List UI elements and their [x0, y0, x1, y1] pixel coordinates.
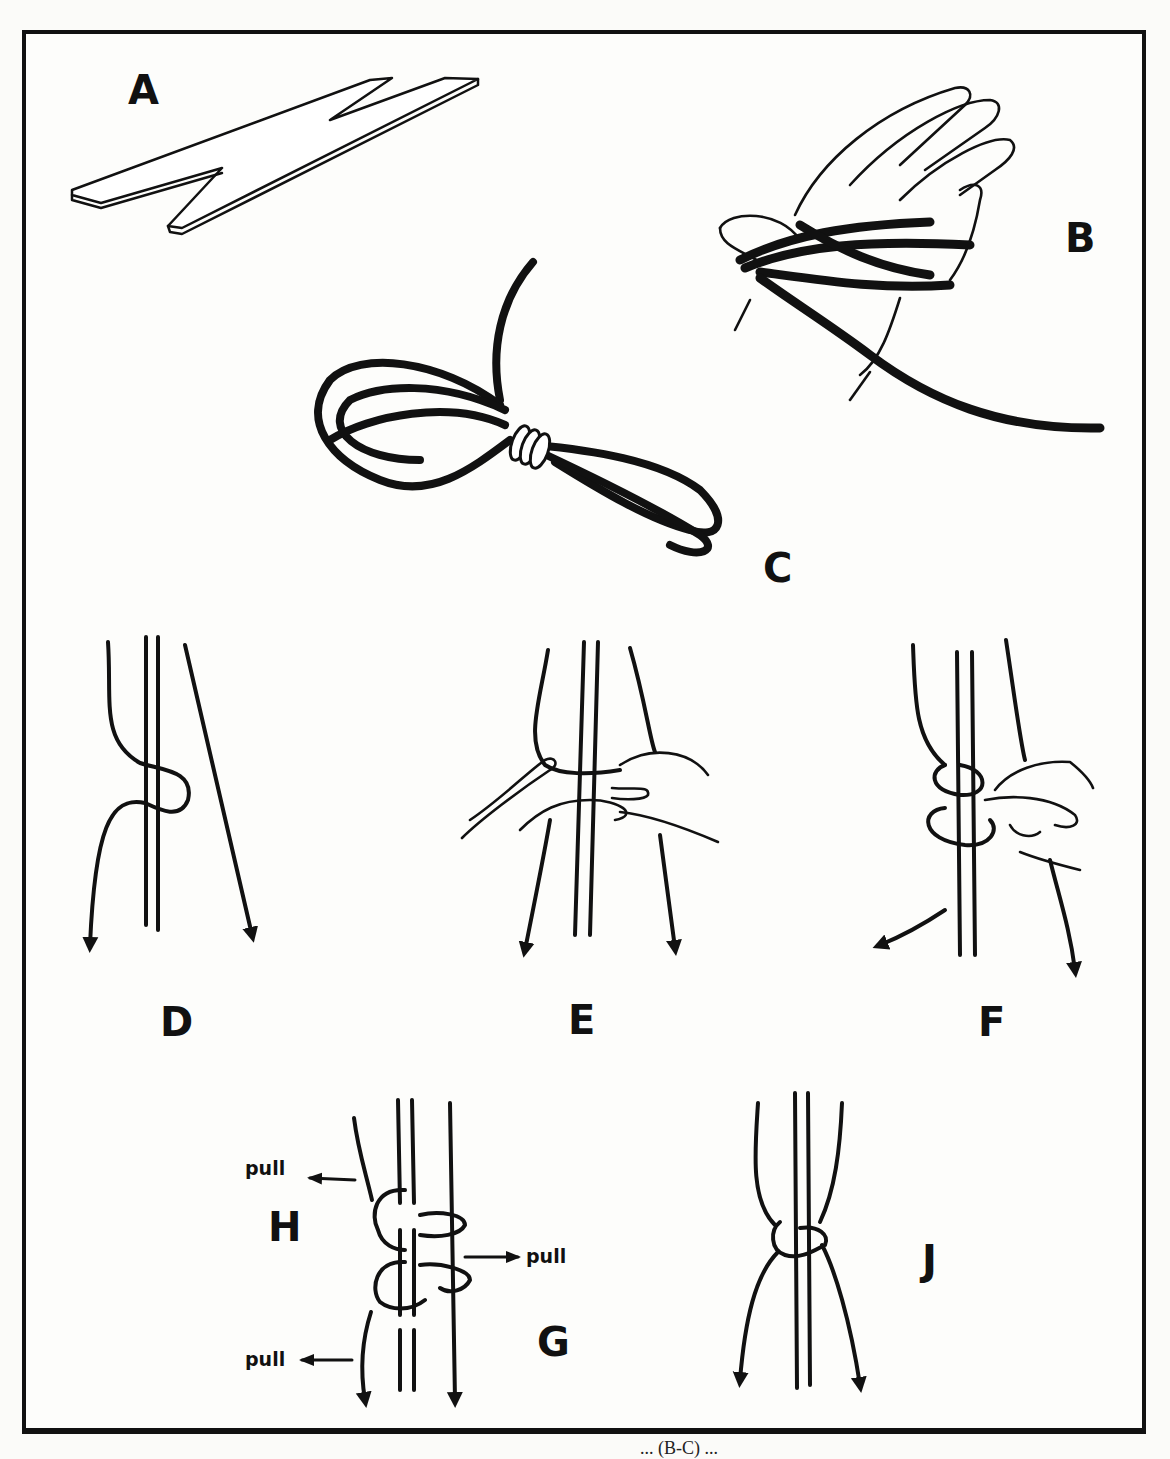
panel-label-a: A [128, 70, 159, 110]
pull-annotation-right: pull [526, 1247, 566, 1266]
panel-e-hands [462, 753, 718, 842]
panel-gh [302, 1100, 518, 1400]
panel-f-hand [985, 762, 1093, 870]
panel-c-wraps [506, 423, 553, 470]
panel-c-bundle [318, 262, 718, 552]
panel-d [90, 637, 252, 945]
panel-b-cord [740, 222, 1100, 428]
panel-label-h: H [268, 1207, 301, 1247]
panel-label-d: D [160, 1002, 193, 1042]
pull-annotation-top-left: pull [245, 1159, 285, 1178]
figure-caption-fragment: ... (B-C) ... [640, 1438, 718, 1459]
panel-j [740, 1093, 860, 1388]
panel-f [880, 640, 1075, 970]
panel-e [525, 642, 675, 950]
panel-label-f: F [978, 1002, 1005, 1042]
panel-label-g: G [537, 1322, 570, 1362]
pull-annotation-bottom-left: pull [245, 1350, 285, 1369]
panel-label-b: B [1065, 218, 1096, 258]
panel-label-c: C [763, 548, 792, 588]
panel-label-e: E [568, 1000, 595, 1040]
panel-label-j: J [922, 1240, 937, 1280]
